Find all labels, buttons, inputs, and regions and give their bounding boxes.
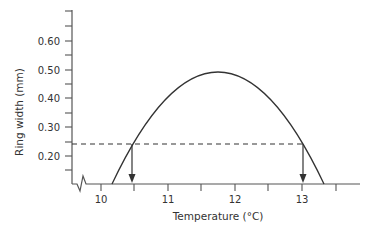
y-tick-label: 0.20 — [38, 151, 60, 162]
y-tick-label: 0.60 — [38, 36, 60, 47]
x-tick-label: 12 — [229, 194, 242, 205]
y-tick-label: 0.40 — [38, 93, 60, 104]
x-tick-label: 10 — [95, 194, 108, 205]
x-tick-label: 11 — [162, 194, 175, 205]
ring-width-curve — [112, 72, 324, 184]
x-tick-label: 13 — [296, 194, 309, 205]
arrow-down-icon — [300, 144, 307, 183]
y-tick-label: 0.50 — [38, 65, 60, 76]
x-axis-label: Temperature (°C) — [172, 210, 264, 222]
y-ticks — [65, 11, 72, 170]
ring-width-chart: 0.60 0.50 0.40 0.30 0.20 Ring width (mm)… — [0, 0, 376, 233]
x-ticks — [101, 184, 336, 191]
y-tick-label: 0.30 — [38, 122, 60, 133]
y-axis-label: Ring width (mm) — [13, 68, 25, 156]
